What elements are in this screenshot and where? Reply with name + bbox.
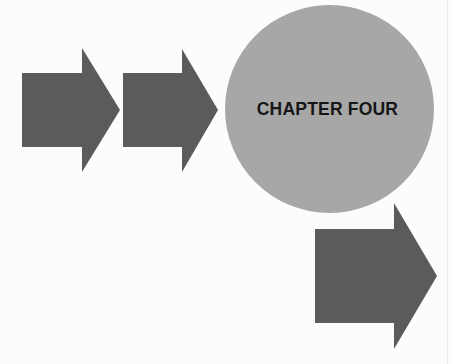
right-arrow-icon	[315, 203, 437, 349]
right-arrow-icon	[123, 49, 218, 172]
chapter-title: CHAPTER FOUR	[225, 99, 430, 120]
right-arrow-icon	[22, 48, 120, 172]
page-edge-divider	[447, 0, 448, 364]
diagram-canvas: CHAPTER FOUR	[0, 0, 451, 364]
